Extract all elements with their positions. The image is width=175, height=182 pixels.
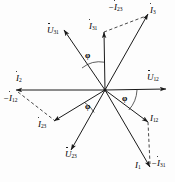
phasor-canvas xyxy=(0,0,175,182)
vector-line-I3 xyxy=(105,14,148,90)
construction-label-neg-I23: −I23 xyxy=(108,3,122,12)
vector-line-I1 xyxy=(105,90,150,167)
vector-line-I31 xyxy=(104,32,105,90)
angle-arc-phi-u31-i31 xyxy=(82,62,104,68)
vector-label-I23: I23 xyxy=(38,120,46,129)
vector-line-U31 xyxy=(64,30,105,90)
angle-arc-phi-u12-i12 xyxy=(129,90,137,110)
vector-label-I1: I1 xyxy=(135,161,141,170)
vector-label-U31: U31 xyxy=(47,26,59,35)
vector-label-U12: U12 xyxy=(147,73,159,82)
vector-line-U12 xyxy=(105,89,166,90)
angle-label-phi-u31-i31: φ xyxy=(85,50,90,60)
origin-point xyxy=(103,88,106,91)
vector-line-I23 xyxy=(54,90,105,121)
vector-line-U23 xyxy=(71,90,105,150)
vector-label-I3: I3 xyxy=(150,6,156,15)
solid-vectors xyxy=(16,14,166,167)
phasor-diagram: I3 I31 U31 I2 U12 I23 U23 I12 I1 −I23 −I… xyxy=(0,0,175,182)
angle-label-phi-u12-i12: φ xyxy=(122,93,127,103)
vector-label-I31: I31 xyxy=(89,22,97,31)
dashed-line-neg-I31 xyxy=(148,122,150,164)
vector-label-U23: U23 xyxy=(65,150,77,159)
construction-label-neg-I31: −I31 xyxy=(151,159,165,168)
vector-label-I2: I2 xyxy=(16,74,22,83)
construction-label-neg-I12: −I12 xyxy=(3,94,17,103)
dashed-line-neg-I12 xyxy=(18,92,54,120)
vector-label-I12: I12 xyxy=(150,114,158,123)
angle-label-phi-u23-i23: φ xyxy=(85,101,90,111)
